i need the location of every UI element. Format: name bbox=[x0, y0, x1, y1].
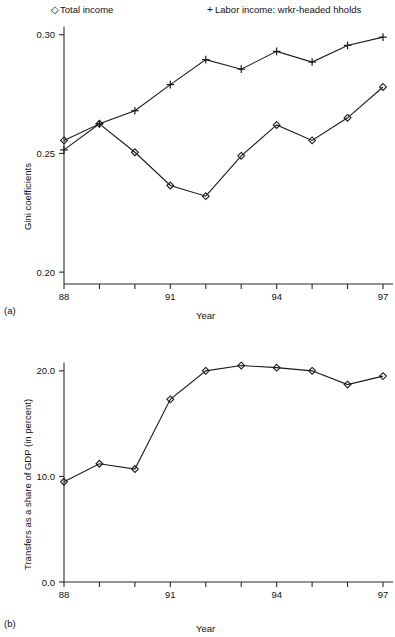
diamond-marker-icon: ◇ bbox=[50, 4, 60, 16]
y-tick-label: 10.0 bbox=[37, 471, 56, 482]
y-axis-label-b: Transfers as a share of GDP (in percent) bbox=[22, 399, 33, 570]
series-line-0 bbox=[64, 87, 383, 196]
y-tick-label: 0.25 bbox=[37, 148, 56, 159]
x-tick-label: 94 bbox=[271, 589, 282, 600]
data-point-plus bbox=[202, 56, 210, 64]
x-tick-label: 91 bbox=[165, 589, 176, 600]
x-tick-label: 97 bbox=[378, 291, 389, 300]
x-tick-label: 88 bbox=[59, 291, 70, 300]
chart-legend: ◇Total income +Labor income: wrkr-headed… bbox=[0, 4, 395, 22]
chart-panel-b: 0.010.020.088919497 bbox=[0, 320, 395, 637]
y-tick-label: 0.0 bbox=[42, 577, 55, 588]
panel-tag-b: (b) bbox=[4, 618, 16, 629]
plus-marker-icon: + bbox=[205, 4, 215, 16]
plot-area-b: 0.010.020.088919497 bbox=[0, 320, 395, 620]
y-tick-label: 20.0 bbox=[37, 365, 56, 376]
x-tick-label: 91 bbox=[165, 291, 176, 300]
plot-area-a: 0.200.250.3088919497 bbox=[0, 0, 395, 300]
data-point-plus bbox=[167, 81, 175, 89]
data-point-plus bbox=[308, 58, 316, 66]
data-point-plus bbox=[379, 33, 387, 41]
series-line-1 bbox=[64, 37, 383, 150]
data-point-plus bbox=[131, 107, 139, 115]
series-line-0 bbox=[64, 366, 383, 482]
legend-entry-labor-income: +Labor income: wrkr-headed hholds bbox=[205, 4, 361, 16]
data-point-plus bbox=[273, 48, 281, 56]
y-tick-label: 0.20 bbox=[37, 267, 56, 278]
legend-label-labor-income: Labor income: wrkr-headed hholds bbox=[215, 4, 361, 15]
legend-label-total-income: Total income bbox=[60, 4, 113, 15]
data-point-plus bbox=[344, 42, 352, 50]
data-point-diamond bbox=[380, 373, 387, 380]
y-axis-label-a: Gini coefficients bbox=[22, 163, 33, 230]
data-point-plus bbox=[237, 65, 245, 73]
panel-tag-a: (a) bbox=[4, 305, 16, 316]
x-tick-label: 88 bbox=[59, 589, 70, 600]
chart-panel-a: ◇Total income +Labor income: wrkr-headed… bbox=[0, 0, 395, 320]
y-tick-label: 0.30 bbox=[37, 29, 56, 40]
x-tick-label: 94 bbox=[271, 291, 282, 300]
x-axis-label-b: Year bbox=[196, 623, 215, 634]
legend-entry-total-income: ◇Total income bbox=[50, 4, 113, 16]
x-tick-label: 97 bbox=[378, 589, 389, 600]
data-point-plus bbox=[60, 146, 68, 154]
